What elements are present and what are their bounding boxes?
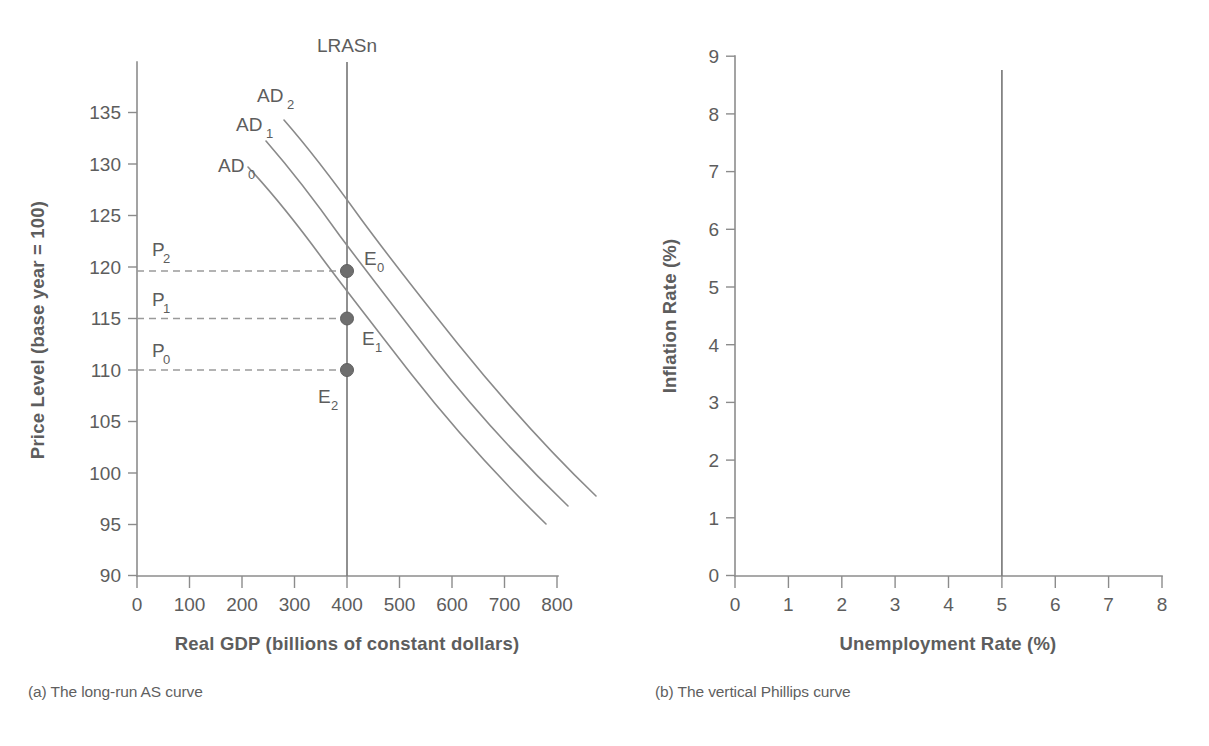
lrasn-label: LRASn xyxy=(317,35,377,56)
panel-a-xtick-700: 700 xyxy=(489,594,521,615)
caption-panel-a: (a) The long-run AS curve xyxy=(28,683,203,701)
panel-b-ytick-0: 0 xyxy=(708,565,719,586)
panel-a-xtick-0: 0 xyxy=(132,594,143,615)
panel-b-xtick-7: 7 xyxy=(1103,594,1114,615)
panel-b-ytick-5: 5 xyxy=(708,277,719,298)
equilibrium-point-e1 xyxy=(341,312,354,325)
equilibrium-label-e0-base: E xyxy=(364,248,377,269)
ad1-label-base: AD xyxy=(236,114,262,135)
panel-a-xtick-200: 200 xyxy=(226,594,258,615)
panel-a-ytick-125: 125 xyxy=(89,205,121,226)
panel-b-xtick-0: 0 xyxy=(730,594,741,615)
panel-b: 0 1 2 3 4 5 6 7 8 9 0 1 xyxy=(659,46,1167,654)
panel-b-xtick-2: 2 xyxy=(837,594,848,615)
price-label-p2-sub: 2 xyxy=(163,251,170,266)
figure-root: 90 95 100 105 110 115 120 125 130 135 xyxy=(0,0,1209,746)
ad1-label: AD 1 xyxy=(236,114,273,141)
caption-panel-b: (b) The vertical Phillips curve xyxy=(655,683,851,701)
equilibrium-label-e1-sub: 1 xyxy=(375,340,382,355)
ad2-label-sub: 2 xyxy=(287,97,294,112)
price-label-p0: P 0 xyxy=(152,340,170,367)
ad0-label-sub: 0 xyxy=(248,167,255,182)
panel-b-ytick-2: 2 xyxy=(708,450,719,471)
equilibrium-point-e0 xyxy=(341,265,354,278)
ad2-label: AD 2 xyxy=(257,85,294,112)
panel-b-ytick-8: 8 xyxy=(708,104,719,125)
panel-b-xtick-5: 5 xyxy=(997,594,1008,615)
ad2-label-base: AD xyxy=(257,85,283,106)
panel-b-x-ticks xyxy=(735,576,1162,588)
panel-a-ytick-120: 120 xyxy=(89,257,121,278)
equilibrium-label-e2: E 2 xyxy=(318,386,338,413)
equilibrium-label-e2-sub: 2 xyxy=(331,398,338,413)
ad1-curve xyxy=(266,141,568,506)
panel-b-xtick-1: 1 xyxy=(783,594,794,615)
equilibrium-label-e0-sub: 0 xyxy=(377,260,384,275)
panel-a-ytick-110: 110 xyxy=(91,360,121,381)
equilibrium-point-e2 xyxy=(341,364,354,377)
panel-a-xtick-500: 500 xyxy=(384,594,416,615)
panel-b-x-axis-title: Unemployment Rate (%) xyxy=(840,633,1057,654)
panel-b-xtick-6: 6 xyxy=(1050,594,1061,615)
panel-b-ytick-1: 1 xyxy=(708,508,719,529)
panel-a-xtick-300: 300 xyxy=(279,594,311,615)
panel-b-y-ticks xyxy=(726,56,735,575)
panel-a-ytick-130: 130 xyxy=(89,154,121,175)
price-label-p0-sub: 0 xyxy=(163,352,170,367)
panel-a-y-ticks xyxy=(128,113,137,576)
panel-a-ytick-95: 95 xyxy=(100,514,121,535)
panel-a-xtick-800: 800 xyxy=(541,594,573,615)
price-label-p2: P 2 xyxy=(152,239,170,266)
panel-b-ytick-6: 6 xyxy=(708,219,719,240)
panel-a-y-axis-title: Price Level (base year = 100) xyxy=(27,201,48,459)
panel-b-xtick-8: 8 xyxy=(1157,594,1168,615)
equilibrium-label-e1-base: E xyxy=(362,328,375,349)
panel-a-xtick-600: 600 xyxy=(436,594,468,615)
price-label-p1-sub: 1 xyxy=(163,301,170,316)
ad0-label-base: AD xyxy=(218,155,244,176)
price-label-p1: P 1 xyxy=(152,289,170,316)
panel-a-ytick-90: 90 xyxy=(100,565,121,586)
ad1-label-sub: 1 xyxy=(266,126,273,141)
panel-a-ytick-115: 115 xyxy=(91,308,121,329)
panel-a-ytick-135: 135 xyxy=(89,102,121,123)
panel-b-ytick-9: 9 xyxy=(708,46,719,67)
panel-a-x-axis-title: Real GDP (billions of constant dollars) xyxy=(175,633,520,654)
panel-b-xtick-3: 3 xyxy=(890,594,901,615)
panel-b-ytick-3: 3 xyxy=(708,392,719,413)
ad2-curve xyxy=(284,120,596,496)
panel-b-ytick-7: 7 xyxy=(708,161,719,182)
panel-b-xtick-4: 4 xyxy=(943,594,954,615)
equilibrium-label-e2-base: E xyxy=(318,386,331,407)
ad0-curve xyxy=(248,167,546,524)
panel-a: 90 95 100 105 110 115 120 125 130 135 xyxy=(27,35,596,654)
panel-b-ytick-4: 4 xyxy=(708,335,719,356)
panel-a-xtick-400: 400 xyxy=(331,594,363,615)
panel-a-ytick-100: 100 xyxy=(89,463,121,484)
ad0-label: AD 0 xyxy=(218,155,255,182)
panel-a-xtick-100: 100 xyxy=(174,594,206,615)
panel-b-y-axis-title: Inflation Rate (%) xyxy=(659,239,680,394)
panel-a-x-ticks xyxy=(137,576,557,588)
panel-a-ytick-105: 105 xyxy=(89,411,121,432)
figure-svg: 90 95 100 105 110 115 120 125 130 135 xyxy=(0,0,1209,746)
